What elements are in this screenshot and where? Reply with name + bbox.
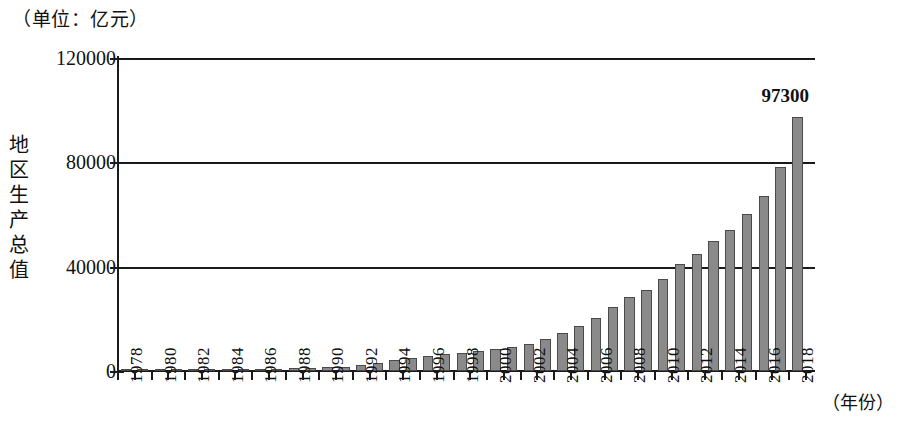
x-tick-mark-1992 [352,371,354,380]
x-tick-mark-2018 [788,371,790,380]
x-tick-label-1980: 1980 [162,347,179,383]
bar-2018 [792,117,802,371]
x-tick-mark-2004 [553,371,555,380]
x-tick-mark-2014 [721,371,723,380]
x-tick-mark-2008 [620,371,622,380]
x-tick-mark-1982 [184,371,186,380]
x-tick-mark-1989 [302,371,304,380]
y-axis-title-char-4: 总 [6,233,32,258]
x-tick-label-2010: 2010 [665,347,682,383]
x-tick-mark-2015 [738,371,740,380]
x-tick-label-2014: 2014 [732,347,749,383]
x-tick-mark-2007 [604,371,606,380]
y-tick-label-0: 0 [30,361,116,381]
x-tick-mark-1990 [318,371,320,380]
x-tick-label-2004: 2004 [564,347,581,383]
x-tick-label-1990: 1990 [329,347,346,383]
x-tick-mark-2009 [637,371,639,380]
x-tick-mark-1997 [436,371,438,380]
x-tick-mark-1993 [369,371,371,380]
plot-area [117,58,815,371]
x-tick-label-2000: 2000 [497,347,514,383]
x-tick-label-1992: 1992 [363,347,380,383]
x-tick-mark-2016 [755,371,757,380]
y-axis-title-char-3: 产 [6,208,32,233]
x-tick-label-2002: 2002 [531,347,548,383]
x-tick-label-1996: 1996 [430,347,447,383]
x-tick-mark-2013 [704,371,706,380]
y-axis-tick-labels: 04000080000120000 [30,0,116,430]
bar-chart: （单位：亿元） 地区生产总值 04000080000120000 （年份） 97… [0,0,900,430]
x-tick-label-1988: 1988 [296,347,313,383]
x-tick-mark-1999 [469,371,471,380]
data-label-2018: 97300 [761,85,809,107]
x-tick-mark-1986 [251,371,253,380]
x-tick-mark-2011 [671,371,673,380]
gridline-120000 [117,58,815,60]
y-axis-title: 地区生产总值 [6,133,32,283]
x-tick-label-1982: 1982 [195,347,212,383]
y-axis-title-char-0: 地 [6,133,32,158]
x-tick-mark-1980 [151,371,153,380]
x-tick-mark-2017 [771,371,773,380]
x-tick-mark-1994 [385,371,387,380]
x-tick-label-1978: 1978 [128,347,145,383]
x-tick-label-1986: 1986 [262,347,279,383]
gridline-80000 [117,162,815,164]
x-tick-mark-2002 [520,371,522,380]
x-tick-mark-1991 [335,371,337,380]
x-tick-mark-end [805,371,807,380]
y-tick-mark-80000 [110,162,124,164]
y-tick-mark-120000 [110,58,124,60]
x-tick-mark-1979 [134,371,136,380]
x-tick-mark-1996 [419,371,421,380]
x-tick-mark-2005 [570,371,572,380]
x-tick-mark-1983 [201,371,203,380]
x-tick-mark-2006 [587,371,589,380]
x-tick-mark-2010 [654,371,656,380]
x-tick-label-2006: 2006 [598,347,615,383]
x-tick-label-1994: 1994 [396,347,413,383]
y-axis-title-char-1: 区 [6,158,32,183]
x-tick-mark-2003 [536,371,538,380]
x-tick-mark-1981 [167,371,169,380]
y-axis-title-char-2: 生 [6,183,32,208]
y-tick-label-80000: 80000 [30,152,116,172]
y-axis-title-char-5: 值 [6,258,32,283]
x-tick-mark-1998 [453,371,455,380]
x-axis-title: （年份） [822,388,894,414]
x-tick-mark-2012 [687,371,689,380]
x-tick-mark-1987 [268,371,270,380]
x-tick-label-2008: 2008 [631,347,648,383]
x-tick-mark-1978 [117,371,119,380]
y-tick-mark-40000 [110,267,124,269]
x-tick-mark-1995 [402,371,404,380]
bar-2017 [775,167,785,371]
x-tick-label-2012: 2012 [698,347,715,383]
x-tick-mark-1984 [218,371,220,380]
y-tick-label-40000: 40000 [30,257,116,277]
x-tick-mark-1988 [285,371,287,380]
x-tick-mark-2000 [486,371,488,380]
x-tick-mark-2001 [503,371,505,380]
x-tick-label-2016: 2016 [766,347,783,383]
x-tick-label-2018: 2018 [799,347,816,383]
x-tick-label-1984: 1984 [229,347,246,383]
bar-2016 [759,196,769,371]
y-tick-label-120000: 120000 [30,48,116,68]
x-tick-mark-1985 [234,371,236,380]
x-tick-label-1998: 1998 [464,347,481,383]
